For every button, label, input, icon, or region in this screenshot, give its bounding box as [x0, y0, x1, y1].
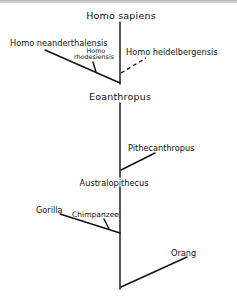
label-gorilla: Gorilla — [36, 205, 63, 215]
label-australopithecus: Australopithecus — [80, 178, 149, 188]
branch-orang — [121, 257, 187, 287]
branch-pithecanthropus — [121, 153, 155, 170]
branch-rhodesiensis — [93, 62, 96, 72]
label-chimpanzee: Chimpanzee — [72, 210, 119, 219]
branch-heidelbergensis — [121, 58, 146, 73]
label-homo-rhodesiensis-2: rhodesiensis — [74, 53, 115, 61]
phylogenetic-tree: Homo sapiens Homo neanderthalensis Homo … — [0, 0, 237, 305]
label-orang: Orang — [171, 248, 196, 258]
label-pithecanthropus: Pithecanthropus — [128, 143, 194, 153]
label-homo-sapiens: Homo sapiens — [86, 10, 156, 21]
label-homo-heidelbergensis: Homo heidelbergensis — [126, 47, 217, 57]
label-eoanthropus: Eoanthropus — [89, 91, 151, 102]
